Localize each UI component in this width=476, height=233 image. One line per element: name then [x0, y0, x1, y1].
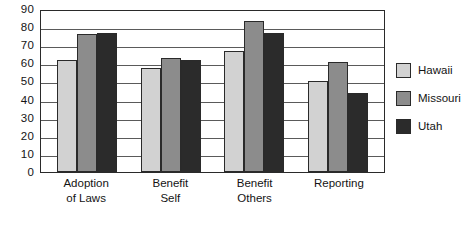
legend-label: Hawaii [418, 64, 453, 76]
y-axis-tick-label: 70 [21, 40, 34, 52]
legend-label: Utah [418, 120, 442, 132]
y-axis-tick-label: 90 [21, 4, 34, 16]
legend-swatch-utah [396, 119, 411, 134]
bar-group [57, 11, 117, 172]
x-axis-label-line: Benefit [139, 176, 201, 191]
x-axis-label-line: of Laws [55, 191, 117, 206]
y-axis-tick-label: 50 [21, 76, 34, 88]
bar-hawaii-adoption-of-laws [57, 60, 77, 172]
x-axis-label: Adoptionof Laws [55, 176, 117, 228]
bar-missouri-reporting [328, 62, 348, 172]
y-axis-tick-label: 10 [21, 149, 34, 161]
bar-missouri-benefit-others [244, 21, 264, 172]
legend-item-utah: Utah [396, 112, 476, 140]
bar-missouri-adoption-of-laws [77, 34, 97, 172]
legend-swatch-missouri [396, 91, 411, 106]
y-axis-tick-label: 80 [21, 22, 34, 34]
y-axis-tick-label: 40 [21, 95, 34, 107]
plot-area [40, 10, 385, 173]
x-axis-label: BenefitSelf [139, 176, 201, 228]
x-axis-label: BenefitOthers [224, 176, 286, 228]
x-axis-label-line: Others [224, 191, 286, 206]
bar-hawaii-benefit-self [141, 68, 161, 172]
bar-utah-reporting [348, 93, 368, 172]
legend: HawaiiMissouriUtah [396, 56, 476, 140]
x-axis-label-line: Reporting [308, 176, 370, 191]
bar-utah-benefit-self [181, 60, 201, 172]
x-axis-label: Reporting [308, 176, 370, 228]
bar-group [141, 11, 201, 172]
x-axis-label-line: Self [139, 191, 201, 206]
y-axis: 9080706050403020100 [0, 0, 34, 233]
y-axis-tick-label: 0 [27, 167, 34, 179]
x-axis-label-line: Benefit [224, 176, 286, 191]
bar-hawaii-benefit-others [224, 51, 244, 172]
legend-swatch-hawaii [396, 63, 411, 78]
bar-missouri-benefit-self [161, 58, 181, 172]
y-axis-tick-label: 60 [21, 58, 34, 70]
bar-chart: 9080706050403020100 Adoptionof LawsBenef… [0, 0, 476, 233]
y-axis-tick-label: 30 [21, 113, 34, 125]
bar-utah-adoption-of-laws [97, 33, 117, 172]
bar-hawaii-reporting [308, 81, 328, 172]
bar-utah-benefit-others [264, 33, 284, 172]
bar-group [308, 11, 368, 172]
x-axis-label-line: Adoption [55, 176, 117, 191]
legend-item-hawaii: Hawaii [396, 56, 476, 84]
y-axis-tick-label: 20 [21, 131, 34, 143]
legend-item-missouri: Missouri [396, 84, 476, 112]
x-axis-labels: Adoptionof LawsBenefitSelfBenefitOthersR… [40, 176, 385, 228]
bar-group [224, 11, 284, 172]
bar-groups [41, 11, 384, 172]
legend-label: Missouri [418, 92, 461, 104]
